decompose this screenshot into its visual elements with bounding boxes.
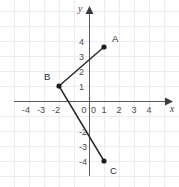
y-tick-label--4: -4	[79, 157, 87, 167]
point-marker-c	[101, 158, 106, 163]
x-tick-label--4: -4	[22, 105, 30, 115]
point-label-a: A	[112, 33, 119, 44]
x-tick-label-0: 0	[81, 105, 86, 115]
point-label-c: C	[110, 165, 117, 176]
x-tick-label-1: 1	[101, 105, 106, 115]
plot-svg: A B C -4 -3 -2 0 1 2 3 4 4 3 2 1 0 -2 -3…	[0, 0, 179, 187]
y-tick-label-2: 2	[79, 67, 84, 77]
y-tick-label--3: -3	[79, 142, 87, 152]
point-marker-b	[56, 83, 61, 88]
point-marker-a	[101, 44, 106, 49]
x-tick-label-4: 4	[146, 105, 151, 115]
y-tick-label-4: 4	[79, 37, 84, 47]
x-tick-label--3: -3	[37, 105, 45, 115]
y-axis-label: y	[77, 4, 83, 14]
y-tick-label-3: 3	[79, 52, 84, 62]
y-tick-label-1: 1	[79, 82, 84, 92]
coordinate-plane-figure: A B C -4 -3 -2 0 1 2 3 4 4 3 2 1 0 -2 -3…	[0, 0, 179, 187]
point-label-b: B	[44, 71, 50, 82]
y-axis-arrowhead	[86, 6, 94, 14]
y-tick-label--2: -2	[79, 127, 87, 137]
x-axis-label: x	[169, 104, 175, 114]
x-tick-label--2: -2	[52, 105, 60, 115]
x-tick-label-3: 3	[131, 105, 136, 115]
y-tick-label-0: 0	[91, 105, 96, 115]
x-tick-label-2: 2	[116, 105, 121, 115]
